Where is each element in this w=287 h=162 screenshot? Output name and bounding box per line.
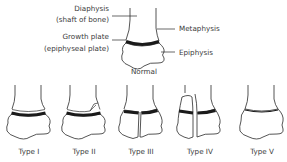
normal-caption: Normal [131,67,157,76]
growth-plate-label: Growth plate [62,32,109,41]
type-2-caption: Type II [71,147,95,156]
salter-harris-diagram: Diaphysis (shaft of bone) Growth plate (… [0,0,287,162]
diaphysis-label: Diaphysis [74,4,109,13]
type-3-caption: Type III [127,147,153,156]
type-1-bone [7,85,50,139]
epiphysis-label: Epiphysis [179,48,213,57]
normal-growth-plate [126,42,159,45]
diaphysis-sublabel: (shaft of bone) [56,15,109,24]
metaphysis-label: Metaphysis [179,24,220,33]
type-5-caption: Type V [249,147,274,156]
type-5-bone [240,85,283,139]
normal-bone: Diaphysis (shaft of bone) Growth plate (… [44,4,220,76]
growth-plate-sublabel: (epiphyseal plate) [44,44,109,53]
type-1-caption: Type I [18,147,40,156]
type-4-caption: Type IV [186,147,213,156]
normal-shaft [126,8,159,41]
type-3-bone [119,85,162,139]
type-4-bone [177,85,220,139]
type-2-bone [62,85,105,139]
normal-epiphysis [122,43,164,69]
